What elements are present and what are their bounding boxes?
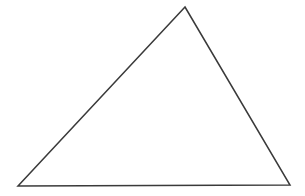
figure-canvas-container: [0, 0, 305, 196]
triangle-figure: [0, 0, 305, 196]
figure-background: [0, 0, 305, 196]
